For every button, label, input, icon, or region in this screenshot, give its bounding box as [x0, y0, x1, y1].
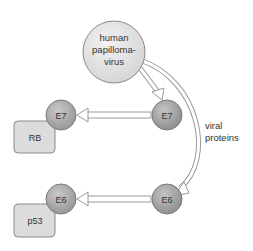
- virus-label-line-3: virus: [104, 56, 124, 67]
- rb-node: RB: [14, 121, 55, 153]
- e7-binding-arrow: [77, 108, 151, 122]
- p53-label: p53: [27, 216, 42, 226]
- e6-right-label: E6: [161, 195, 172, 205]
- e7-left-node: E7: [46, 100, 76, 130]
- viral-proteins-label-line-2: proteins: [205, 132, 239, 143]
- hpv-diagram: human papilloma- virus RB p53 E7 E7 E6 E…: [0, 0, 253, 251]
- hpv-virus-node: human papilloma- virus: [83, 21, 145, 83]
- e6-binding-arrow: [77, 192, 151, 206]
- e7-right-label: E7: [161, 111, 172, 121]
- rb-label: RB: [29, 133, 42, 143]
- virus-label-line-1: human: [99, 32, 128, 43]
- virus-label-line-2: papilloma-: [92, 44, 136, 55]
- e6-left-label: E6: [55, 195, 66, 205]
- p53-node: p53: [14, 204, 55, 237]
- viral-proteins-label-line-1: viral: [205, 120, 222, 131]
- e6-left-node: E6: [46, 184, 76, 214]
- e7-left-label: E7: [55, 111, 66, 121]
- e7-right-node: E7: [152, 100, 182, 130]
- e6-right-node: E6: [152, 184, 182, 214]
